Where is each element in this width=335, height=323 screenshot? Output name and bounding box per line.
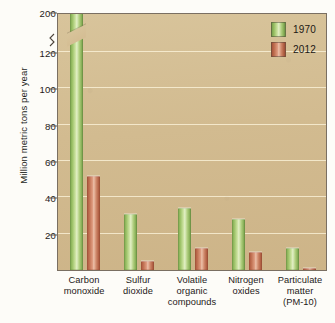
legend: 1970 2012 [271, 22, 316, 57]
legend-item-2012: 2012 [271, 42, 316, 57]
x-axis-label-line: dioxide [111, 286, 165, 297]
bar-1970 [286, 248, 299, 270]
x-axis-label: Volatileorganiccompounds [165, 275, 219, 308]
air-pollutant-emissions-bar-chart: Million metric tons per year 20406080100… [0, 0, 335, 323]
y-tick-mark [49, 125, 57, 126]
x-axis-label-line: compounds [165, 297, 219, 308]
x-axis-label: Sulfurdioxide [111, 275, 165, 297]
legend-swatch-2012 [271, 42, 286, 57]
x-axis-label: Carbonmonoxide [57, 275, 111, 297]
bar-highlight [141, 260, 154, 262]
x-axis-label-line: oxides [219, 286, 273, 297]
bar-1970 [70, 13, 83, 270]
x-axis-label-line: Nitrogen [219, 275, 273, 286]
gridline [58, 160, 326, 161]
bar-highlight [303, 267, 316, 269]
legend-item-1970: 1970 [271, 22, 316, 37]
y-tick-mark [49, 161, 57, 162]
x-axis-label-line: organic [165, 286, 219, 297]
y-tick-mark [49, 52, 57, 53]
x-axis-label-line: Particulate [273, 275, 327, 286]
x-axis-label-line: Volatile [165, 275, 219, 286]
bar-highlight [195, 247, 208, 249]
bar-1970 [178, 208, 191, 270]
y-tick-mark [49, 13, 57, 14]
legend-swatch-1970 [271, 22, 286, 37]
x-axis-label: Particulatematter(PM-10) [273, 275, 327, 308]
x-axis-label-line: (PM-10) [273, 297, 327, 308]
bar-highlight [249, 251, 262, 253]
legend-label-1970: 1970 [293, 24, 316, 35]
x-axis-label-line: Carbon [57, 275, 111, 286]
bar-highlight [87, 175, 100, 177]
x-axis-label: Nitrogenoxides [219, 275, 273, 297]
bar-highlight [232, 218, 245, 220]
bar-2012 [195, 248, 208, 270]
gridline [58, 87, 326, 88]
plot-area: 1970 2012 [57, 13, 327, 271]
bar-highlight [124, 213, 137, 215]
legend-label-2012: 2012 [293, 44, 316, 55]
x-axis-label-line: monoxide [57, 286, 111, 297]
bar-highlight [178, 207, 191, 209]
bar-1970 [232, 219, 245, 270]
x-axis-label-line: matter [273, 286, 327, 297]
gridline [58, 124, 326, 125]
y-tick-mark [49, 89, 57, 90]
bar-2012 [87, 176, 100, 270]
bar-1970 [124, 214, 137, 270]
bar-2012 [141, 261, 154, 270]
bar-2012 [249, 252, 262, 270]
y-tick-mark [49, 234, 57, 235]
bar-2012 [303, 268, 316, 270]
x-axis-label-line: Sulfur [111, 275, 165, 286]
bar-break-notch [67, 24, 86, 46]
bar-highlight [70, 13, 83, 14]
y-tick-mark [49, 198, 57, 199]
bar-highlight [286, 247, 299, 249]
